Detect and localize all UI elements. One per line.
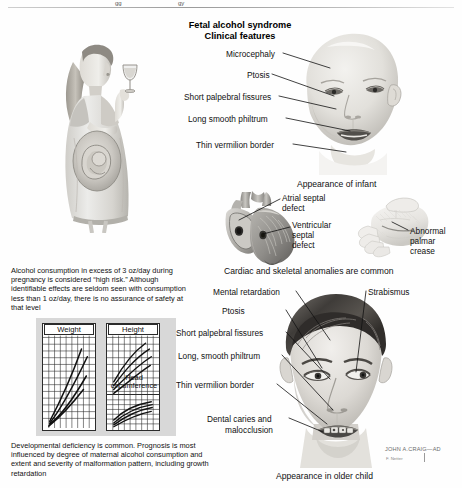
older-child-caption: Appearance in older child (276, 471, 373, 481)
top-divider (8, 7, 454, 8)
weight-chart-plot (43, 324, 95, 428)
infant-label-long-smooth-philtrum: Long smooth philtrum (188, 114, 268, 124)
child-label-strabismus: Strabismus (368, 287, 410, 297)
child-label-short-palpebral-fissures: Short palpebral fissures (176, 328, 263, 338)
infant-caption: Appearance of infant (297, 179, 376, 189)
growth-chart-weight (42, 323, 96, 431)
ventricular-septal-defect-line2: septal (292, 230, 314, 240)
cut-text-glyph-left: gg (115, 0, 122, 6)
artist-signature-secondary: F. Netter (386, 456, 403, 461)
older-child-head-illustration (262, 288, 410, 468)
heart-label-ventricular-septal-defect: Ventricular septal defect (292, 220, 350, 250)
child-label-thin-vermilion-border: Thin vermilion border (176, 380, 254, 390)
child-label-dental-caries-line2: malocclusion (225, 425, 273, 435)
head-circumference-line2: circumference (111, 381, 157, 390)
anomalies-caption: Cardiac and skeletal anomalies are commo… (224, 266, 394, 276)
abnormal-palmar-crease-line1: Abnormal (410, 226, 446, 236)
atrial-septal-defect-line2: defect (282, 203, 305, 213)
heart-label-atrial-septal-defect: Atrial septal defect (282, 193, 344, 213)
child-label-ptosis: Ptosis (222, 306, 245, 316)
illustration-page: gg gy Fetal alcohol syndrome Clinical fe… (0, 0, 462, 488)
infant-head-illustration (283, 25, 415, 175)
abnormal-palmar-crease-line2: palmar (410, 236, 435, 246)
ventricular-septal-defect-line1: Ventricular (292, 220, 331, 230)
abnormal-palmar-crease-line3: crease (410, 246, 435, 256)
note-alcohol-consumption: Alcohol consumption in excess of 3 oz/da… (11, 266, 189, 312)
cut-text-glyph-right: gy (178, 0, 184, 6)
signature-tick-mark (424, 453, 425, 462)
pregnant-woman-illustration (44, 28, 154, 233)
chart-title-weight: Weight (44, 324, 94, 335)
infant-label-short-palpebral-fissures: Short palpebral fissures (184, 92, 271, 102)
infant-label-thin-vermilion-border: Thin vermilion border (196, 140, 274, 150)
chart-title-head-circumference: Head circumference (110, 374, 158, 391)
growth-charts-panel: Weight Height (36, 318, 176, 436)
hand-label-abnormal-palmar-crease: Abnormal palmar crease (410, 226, 460, 256)
note-developmental-deficiency: Developmental deficiency is common. Prog… (11, 441, 211, 478)
chart-title-height: Height (108, 324, 158, 335)
atrial-septal-defect-line1: Atrial septal (282, 193, 325, 203)
ventricular-septal-defect-line3: defect (292, 240, 315, 250)
child-label-dental-caries-line1: Dental caries and (207, 414, 272, 424)
artist-signature: JOHN A.CRAIG—AD (385, 446, 441, 452)
child-label-mental-retardation: Mental retardation (213, 287, 280, 297)
child-label-long-smooth-philtrum: Long, smooth philtrum (178, 351, 260, 361)
head-circumference-chart-plot (107, 395, 159, 431)
infant-label-ptosis: Ptosis (247, 70, 270, 80)
growth-chart-head-circumference (106, 394, 160, 431)
infant-label-microcephaly: Microcephaly (226, 49, 275, 59)
